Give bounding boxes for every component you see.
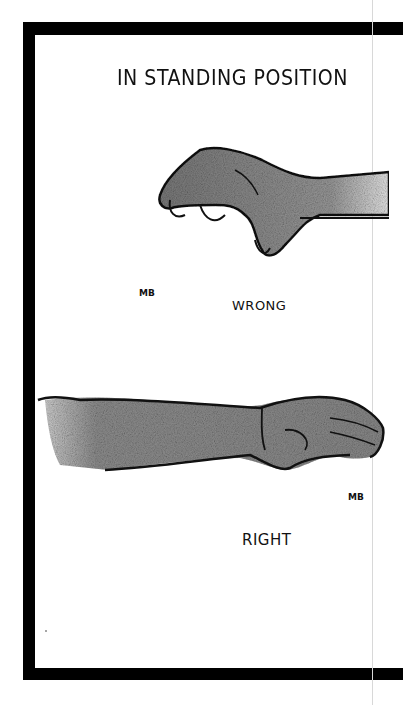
right-label: RIGHT [242,531,291,549]
wrong-hand-illustration [159,148,389,255]
paper-speck [45,630,47,632]
wrong-label: WRONG [232,298,286,313]
artist-signature: MB [139,288,155,298]
right-hand-illustration [38,397,383,470]
artist-signature: MB [348,492,364,502]
